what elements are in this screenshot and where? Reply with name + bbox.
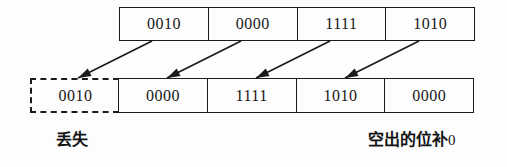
caption-fill-zero-digit: 0 [448,132,456,148]
bit-cell: 0010 [120,8,209,40]
caption-fill-zero: 空出的位补0 [368,132,456,148]
shift-arrow-1 [78,41,152,78]
bit-cell: 1010 [386,8,474,40]
bit-cell: 0000 [385,79,473,112]
bit-cell: 0000 [209,8,298,40]
shift-arrow-2 [167,41,241,78]
shift-arrow-4 [345,41,419,78]
bit-cell: 0000 [119,79,208,112]
shift-arrow-3 [256,41,330,78]
caption-lost: 丢失 [56,132,88,148]
bit-cell: 1111 [208,79,297,112]
lost-bit-cell: 0010 [30,78,119,113]
bit-cell: 1010 [297,79,386,112]
bit-cell: 1111 [298,8,387,40]
shift-diagram: 0010 0000 1111 1010 0010 0000 1111 1010 … [0,0,507,167]
caption-fill-text: 空出的位补 [368,130,448,149]
original-bits-row: 0010 0000 1111 1010 [119,7,475,41]
shifted-bits-row: 0000 1111 1010 0000 [118,78,474,113]
